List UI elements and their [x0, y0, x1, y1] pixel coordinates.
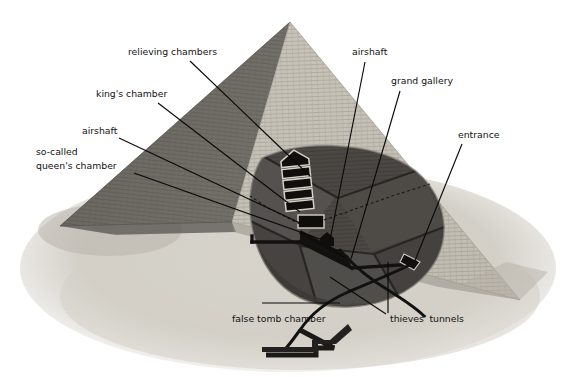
pyramid-illustration: relieving chambers king's chamber airsha… [0, 0, 568, 377]
label-kings-chamber: king's chamber [96, 88, 167, 99]
label-queens-chamber: queen's chamber [36, 160, 117, 171]
label-entrance: entrance [458, 129, 500, 140]
pyramid-cutaway-figure: relieving chambers king's chamber airsha… [0, 0, 568, 377]
label-grand-gallery: grand gallery [391, 75, 453, 86]
label-so-called: so-called [36, 146, 78, 157]
label-thieves-tunnels: thieves' tunnels [390, 313, 464, 324]
label-airshaft-right: airshaft [352, 46, 388, 57]
label-airshaft-left: airshaft [82, 125, 118, 136]
label-relieving-chambers: relieving chambers [128, 46, 217, 57]
kings-chamber [298, 215, 324, 228]
relieving-chambers [280, 149, 314, 212]
label-false-tomb-chamber: false tomb chamber [232, 313, 326, 324]
